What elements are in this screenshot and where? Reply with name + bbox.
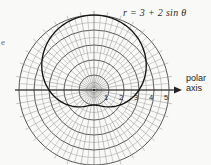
grid-spoke-outer [87,15,90,52]
polar-axis-label-word-axis: axis [186,83,206,93]
grid-spoke-outer [87,127,90,164]
radial-tick-label: 3 [134,93,138,102]
grid-spoke [95,92,121,164]
grid-spoke [67,16,93,88]
radial-tick-label: 1 [104,93,108,102]
grid-spoke [67,92,93,164]
radial-tick-label: 4 [149,93,153,102]
grid-spoke-outer [97,127,100,164]
equation-label: r = 3 + 2 sin θ [123,7,186,18]
grid-spoke-outer [97,15,100,52]
grid-spoke-outer [19,83,56,86]
pole-center-dot [93,89,96,92]
polar-plot-figure: r = 3 + 2 sin θ polar axis 12345 e [0,0,211,165]
polar-axis-label-word-polar: polar [186,73,206,83]
radial-tick-label: 5 [164,93,168,102]
grid-spoke [95,16,121,88]
polar-axis-label: polar axis [186,73,206,93]
polar-grid-and-curve [0,0,211,165]
grid-spoke-outer [121,117,148,144]
radial-tick-label: 2 [119,93,123,102]
polar-axis-arrowhead [174,87,182,94]
grid-spoke-outer [41,117,68,144]
cropped-text-fragment: e [1,37,5,47]
grid-spoke-outer [131,83,168,86]
grid-spoke [20,91,92,117]
grid-spoke [96,63,168,89]
grid-spoke [20,63,92,89]
